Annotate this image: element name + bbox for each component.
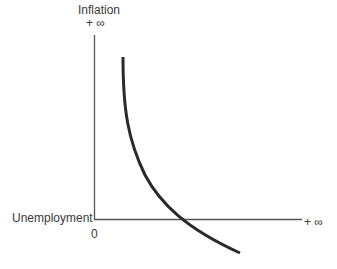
- origin-label: 0: [91, 227, 98, 241]
- y-axis-title: Inflation: [78, 3, 120, 17]
- phillips-curve-diagram: [0, 0, 337, 269]
- x-axis-title: Unemployment: [12, 211, 93, 225]
- x-axis-infinity-label: + ∞: [304, 215, 323, 229]
- phillips-curve: [123, 57, 240, 253]
- y-axis-infinity-label: + ∞: [86, 16, 105, 30]
